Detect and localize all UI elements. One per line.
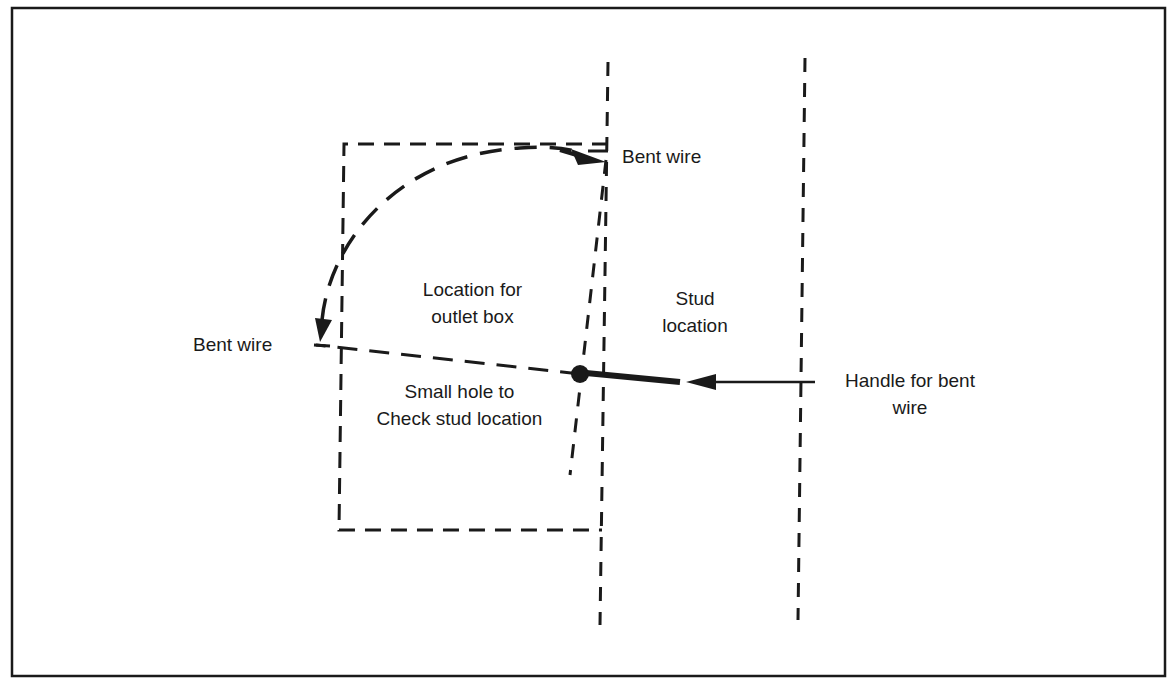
wire-swing-line xyxy=(316,345,580,374)
wire-tilted-line xyxy=(570,160,606,475)
stud-edge-left xyxy=(600,62,608,625)
label-bent-wire-top: Bent wire xyxy=(622,143,701,170)
label-stud-location: Stud location xyxy=(650,285,740,339)
label-line-1: Small hole to xyxy=(357,378,562,405)
handle-arrowhead-icon xyxy=(686,374,716,390)
label-line-1: Location for xyxy=(400,276,545,303)
label-line-2: outlet box xyxy=(400,303,545,330)
label-bent-wire-left: Bent wire xyxy=(193,331,272,358)
label-text: Bent wire xyxy=(193,331,272,358)
stud-location-diagram xyxy=(0,0,1173,681)
label-small-hole: Small hole to Check stud location xyxy=(357,378,562,432)
label-handle: Handle for bent wire xyxy=(825,367,995,421)
handle-wire xyxy=(586,373,680,382)
label-text: Bent wire xyxy=(622,143,701,170)
label-outlet-box: Location for outlet box xyxy=(400,276,545,330)
arc-arrowhead-down-icon xyxy=(315,318,332,342)
left-wire-tick xyxy=(314,345,330,346)
label-line-1: Stud xyxy=(650,285,740,312)
outlet-box-outline xyxy=(339,144,608,530)
label-line-1: Handle for bent xyxy=(825,367,995,394)
diagram-frame xyxy=(12,8,1165,676)
label-line-2: wire xyxy=(825,394,995,421)
label-line-2: Check stud location xyxy=(357,405,562,432)
stud-edge-right xyxy=(798,58,805,620)
label-line-2: location xyxy=(650,312,740,339)
